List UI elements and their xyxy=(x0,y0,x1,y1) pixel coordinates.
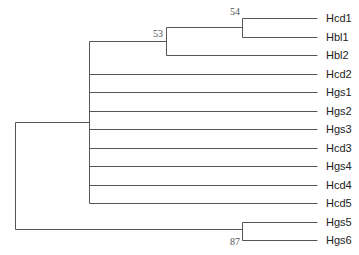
bootstrap-value: 53 xyxy=(153,28,163,39)
leaf-label: Hcd4 xyxy=(326,179,352,191)
leaf-label: Hcd2 xyxy=(326,68,352,80)
leaf-label: Hgs2 xyxy=(326,105,352,117)
leaf-label: Hcd3 xyxy=(326,142,352,154)
leaf-labels: Hcd1Hbl1Hbl2Hcd2Hgs1Hgs2Hgs3Hcd3Hgs4Hcd4… xyxy=(326,12,352,246)
bootstrap-value: 87 xyxy=(230,236,240,247)
leaf-label: Hcd1 xyxy=(326,12,352,24)
leaf-label: Hgs4 xyxy=(326,160,352,172)
leaf-label: Hcd5 xyxy=(326,197,352,209)
tree-branches xyxy=(16,19,318,241)
leaf-label: Hgs6 xyxy=(326,234,352,246)
leaf-label: Hgs3 xyxy=(326,123,352,135)
leaf-label: Hgs1 xyxy=(326,86,352,98)
bootstrap-value: 54 xyxy=(230,6,240,17)
leaf-label: Hbl1 xyxy=(326,31,349,43)
phylogenetic-tree: Hcd1Hbl1Hbl2Hcd2Hgs1Hgs2Hgs3Hcd3Hgs4Hcd4… xyxy=(0,0,359,255)
leaf-label: Hgs5 xyxy=(326,216,352,228)
leaf-label: Hbl2 xyxy=(326,49,349,61)
